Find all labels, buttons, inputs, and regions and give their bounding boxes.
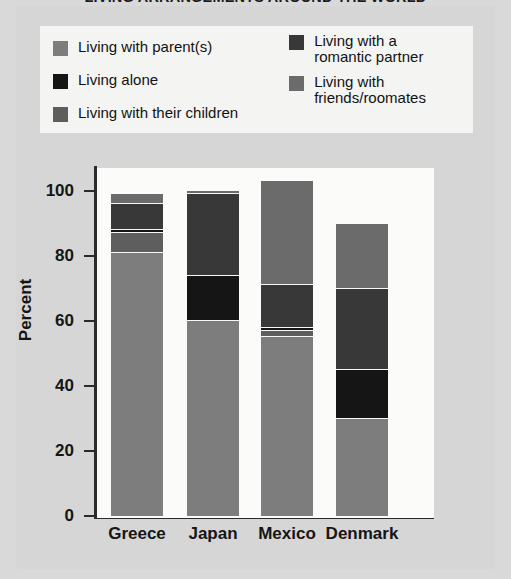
- y-tick-100: [84, 190, 95, 192]
- legend-swatch-alone-icon: [53, 74, 68, 89]
- y-tick-20: [84, 450, 95, 452]
- bar-segment-greece-parents: [111, 253, 163, 516]
- y-tick-40: [84, 385, 95, 387]
- y-tick-label-40: 40: [10, 376, 74, 396]
- y-tick-label-60: 60: [10, 311, 74, 331]
- y-tick-0: [84, 515, 95, 517]
- legend-label-alone: Living alone: [78, 72, 158, 88]
- legend-label-parents: Living with parent(s): [78, 39, 212, 55]
- legend-swatch-partner-icon: [289, 35, 304, 50]
- legend-column-left: Living with parent(s)Living aloneLiving …: [40, 26, 285, 133]
- x-axis-label-denmark: Denmark: [317, 524, 407, 544]
- bar-segment-denmark-alone: [336, 370, 388, 419]
- bar-segment-denmark-partner: [336, 289, 388, 370]
- legend-swatch-parents-icon: [53, 41, 68, 56]
- bar-greece[interactable]: [111, 194, 163, 516]
- bar-segment-japan-parents: [187, 321, 239, 516]
- bar-segment-greece-roommates: [111, 194, 163, 204]
- bar-japan[interactable]: [187, 191, 239, 516]
- bar-segment-denmark-parents: [336, 419, 388, 517]
- legend-label-partner: Living with a romantic partner: [314, 33, 423, 65]
- bar-denmark[interactable]: [336, 224, 388, 517]
- legend-swatch-roommates-icon: [289, 76, 304, 91]
- legend-item-alone[interactable]: Living alone: [53, 66, 285, 94]
- bar-segment-greece-children: [111, 233, 163, 253]
- y-tick-label-20: 20: [10, 441, 74, 461]
- y-tick-label-0: 0: [10, 506, 74, 526]
- y-tick-label-100: 100: [10, 181, 74, 201]
- bar-segment-mexico-parents: [261, 337, 313, 516]
- legend-item-partner[interactable]: Living with a romantic partner: [289, 33, 473, 65]
- legend-item-children[interactable]: Living with their children: [53, 99, 285, 127]
- bar-segment-greece-partner: [111, 204, 163, 230]
- legend-column-right: Living with a romantic partnerLiving wit…: [285, 26, 473, 133]
- chart-title: LIVING ARRANGEMENTS AROUND THE WORLD: [0, 0, 511, 5]
- y-tick-80: [84, 255, 95, 257]
- bar-segment-japan-partner: [187, 194, 239, 275]
- bar-segment-denmark-roommates: [336, 224, 388, 289]
- y-tick-label-80: 80: [10, 246, 74, 266]
- y-tick-60: [84, 320, 95, 322]
- legend-item-roommates[interactable]: Living with friends/roomates: [289, 74, 473, 106]
- bar-segment-mexico-roommates: [261, 181, 313, 285]
- chart-legend: Living with parent(s)Living aloneLiving …: [40, 26, 473, 133]
- legend-label-children: Living with their children: [78, 105, 238, 121]
- bar-segment-japan-alone: [187, 276, 239, 322]
- bar-mexico[interactable]: [261, 181, 313, 516]
- legend-swatch-children-icon: [53, 107, 68, 122]
- legend-label-roommates: Living with friends/roomates: [314, 74, 426, 106]
- legend-item-parents[interactable]: Living with parent(s): [53, 33, 285, 61]
- bar-segment-mexico-partner: [261, 285, 313, 327]
